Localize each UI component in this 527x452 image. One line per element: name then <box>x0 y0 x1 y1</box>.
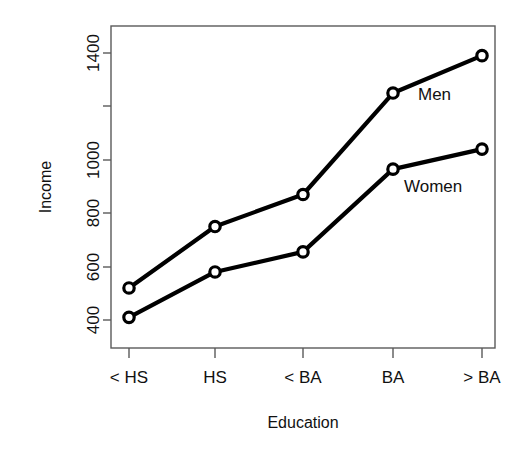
data-point-men-ba <box>477 50 487 60</box>
x-tick-label-lt-ba: < BA <box>284 368 322 387</box>
data-point-women-hs <box>124 312 134 322</box>
data-point-men-ba <box>388 88 398 98</box>
x-tick-label-lt-hs: < HS <box>110 368 148 387</box>
y-axis-tick-labels: 1400 1000 800 600 400 <box>84 34 103 334</box>
y-tick-label-1000: 1000 <box>84 141 103 179</box>
x-axis-ticks <box>129 348 482 358</box>
y-tick-label-600: 600 <box>84 253 103 281</box>
series-annotation-women: Women <box>404 177 462 196</box>
x-tick-label-gt-ba: > BA <box>463 368 501 387</box>
y-axis-ticks <box>103 53 111 320</box>
y-tick-label-800: 800 <box>84 199 103 227</box>
x-tick-label-hs: HS <box>203 368 227 387</box>
chart-canvas: 1400 1000 800 600 400 Income < HS HS < B… <box>0 0 527 452</box>
y-tick-label-400: 400 <box>84 306 103 334</box>
data-point-women-hs <box>210 267 220 277</box>
data-point-women-ba <box>388 164 398 174</box>
income-by-education-chart: 1400 1000 800 600 400 Income < HS HS < B… <box>0 0 527 452</box>
x-axis-tick-labels: < HS HS < BA BA > BA <box>110 368 501 387</box>
data-point-women-ba <box>477 144 487 154</box>
series-annotation-men: Men <box>418 85 451 104</box>
data-point-men-hs <box>210 221 220 231</box>
data-point-men-ba <box>298 189 308 199</box>
data-point-women-ba <box>298 247 308 257</box>
series-women <box>124 144 487 323</box>
x-axis-title: Education <box>267 414 338 431</box>
data-point-men-hs <box>124 283 134 293</box>
x-tick-label-ba: BA <box>382 368 405 387</box>
series-line-women <box>129 149 482 317</box>
y-axis-title: Income <box>37 161 54 214</box>
y-tick-label-1400: 1400 <box>84 34 103 72</box>
